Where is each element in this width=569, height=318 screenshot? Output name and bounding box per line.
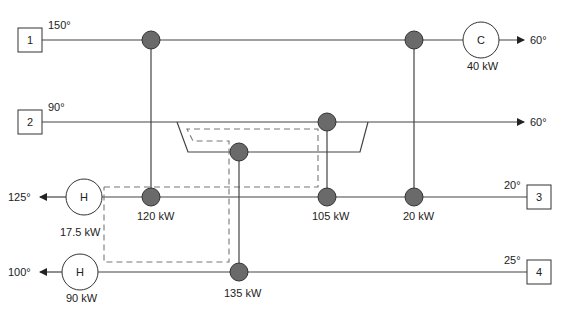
exchanger-e3-cold-side xyxy=(405,188,423,206)
exchanger-e4: 135 kW xyxy=(224,143,262,299)
exchanger-e3-duty: 20 kW xyxy=(403,210,435,222)
heater-stream-4: H 90 kW xyxy=(62,254,98,304)
dashed-loop xyxy=(104,129,318,262)
exchanger-e1-duty: 120 kW xyxy=(137,210,175,222)
exchanger-e4-cold-side xyxy=(230,263,248,281)
stream-4-label: 4 xyxy=(536,266,542,278)
exchanger-e1-cold-side xyxy=(142,188,160,206)
exchanger-e2-duty: 105 kW xyxy=(312,210,350,222)
heater-3-duty: 17.5 kW xyxy=(60,226,101,238)
heater-4-duty: 90 kW xyxy=(66,292,98,304)
stream-3-label: 3 xyxy=(536,191,542,203)
stream-4-outlet-temp: 100° xyxy=(8,266,31,278)
exchanger-e4-hot-side xyxy=(230,143,248,161)
exchanger-e1: 120 kW xyxy=(137,31,175,222)
stream-2: 2 90° 60° xyxy=(18,101,547,152)
exchanger-e2-cold-side xyxy=(318,188,336,206)
heater-4-symbol: H xyxy=(76,266,84,278)
exchanger-e2-hot-side xyxy=(318,113,336,131)
stream-2-inlet-temp: 90° xyxy=(48,101,65,113)
stream-2-label: 2 xyxy=(27,116,33,128)
heater-stream-3: H 17.5 kW xyxy=(60,179,102,238)
exchanger-e4-duty: 135 kW xyxy=(224,287,262,299)
stream-4-inlet-temp: 25° xyxy=(504,254,521,266)
exchanger-e1-hot-side xyxy=(142,31,160,49)
heater-3-symbol: H xyxy=(80,191,88,203)
stream-3-inlet-temp: 20° xyxy=(504,179,521,191)
stream-3-outlet-temp: 125° xyxy=(8,191,31,203)
exchanger-connections xyxy=(151,40,414,272)
cooler-symbol: C xyxy=(477,34,485,46)
cooler-stream-1: C 40 kW xyxy=(463,22,499,72)
stream-1-inlet-temp: 150° xyxy=(48,19,71,31)
cooler-duty: 40 kW xyxy=(467,60,499,72)
heat-exchanger-network-diagram: 1 150° 60° 2 90° 60° 3 20° 125° 4 25° 10… xyxy=(0,0,569,318)
exchanger-e3-hot-side xyxy=(405,31,423,49)
stream-2-outlet-temp: 60° xyxy=(530,116,547,128)
stream-1-outlet-temp: 60° xyxy=(530,34,547,46)
stream-1-label: 1 xyxy=(27,34,33,46)
exchanger-e3: 20 kW xyxy=(403,31,435,222)
